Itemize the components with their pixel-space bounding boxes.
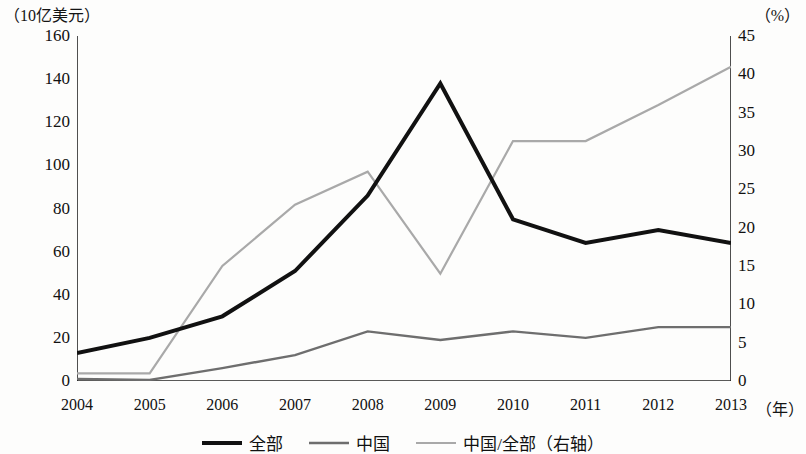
series-line-3 (77, 67, 731, 374)
left-axis-tick-label: 140 (24, 70, 70, 87)
right-axis-tick-label: 45 (738, 27, 778, 44)
chart-svg (77, 36, 731, 381)
left-axis-tick-label: 60 (24, 243, 70, 260)
legend-swatch-line (202, 437, 242, 449)
legend-item-label: 全部 (249, 430, 283, 454)
x-axis-tick-label: 2008 (341, 396, 395, 414)
legend-item-label: 中国/全部（右轴） (463, 430, 604, 454)
right-axis-tick-label: 30 (738, 142, 778, 159)
x-axis-unit-label: （年） (756, 396, 804, 420)
x-axis-tick-label: 2013 (704, 396, 758, 414)
x-axis-tick-label: 2004 (50, 396, 104, 414)
left-axis-tick-label: 120 (24, 113, 70, 130)
right-axis-tick-label: 35 (738, 104, 778, 121)
left-axis-tick-label: 0 (24, 372, 70, 389)
right-axis-tick-label: 25 (738, 180, 778, 197)
plot-area (77, 36, 731, 381)
legend-item-1[interactable]: 全部 (202, 430, 283, 454)
right-axis-tick-label: 10 (738, 295, 778, 312)
legend-item-label: 中国 (356, 430, 390, 454)
series-line-1 (77, 83, 731, 353)
x-axis-tick-label: 2012 (631, 396, 685, 414)
left-axis-tick-label: 20 (24, 329, 70, 346)
left-axis-tick-label: 80 (24, 200, 70, 217)
right-axis-tick-label: 20 (738, 219, 778, 236)
left-axis-tick-label: 160 (24, 27, 70, 44)
x-axis-tick-label: 2009 (413, 396, 467, 414)
x-axis-tick-label: 2005 (123, 396, 177, 414)
right-axis-tick-label: 5 (738, 334, 778, 351)
x-axis-tick-label: 2006 (195, 396, 249, 414)
legend-swatch-line (309, 437, 349, 449)
right-axis-tick-label: 15 (738, 257, 778, 274)
right-axis-tick-label: 40 (738, 65, 778, 82)
x-axis-tick-label: 2007 (268, 396, 322, 414)
series-lines (77, 67, 731, 380)
x-axis-tick-label: 2010 (486, 396, 540, 414)
right-axis-unit-label: （%） (755, 2, 800, 26)
x-axis-tick-label: 2011 (559, 396, 613, 414)
legend-item-3[interactable]: 中国/全部（右轴） (416, 430, 604, 454)
legend-item-2[interactable]: 中国 (309, 430, 390, 454)
left-axis-tick-label: 100 (24, 156, 70, 173)
right-axis-tick-label: 0 (738, 372, 778, 389)
left-axis-unit-label: （10亿美元） (4, 2, 100, 26)
left-axis-tick-label: 40 (24, 286, 70, 303)
chart-legend: 全部中国中国/全部（右轴） (0, 430, 806, 454)
legend-swatch-line (416, 437, 456, 449)
chart-page: （10亿美元） （%） （年） 020406080100120140160 05… (0, 0, 806, 454)
